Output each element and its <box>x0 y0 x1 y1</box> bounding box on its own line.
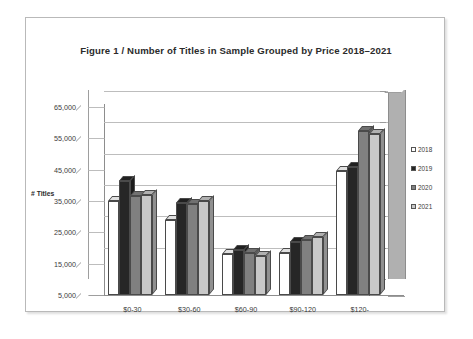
bar-side-face <box>152 189 157 295</box>
legend-swatch <box>411 185 416 190</box>
y-axis-title: # Titles <box>31 190 54 197</box>
legend-label: 2019 <box>418 165 432 172</box>
x-axis-category-label: $90-120 <box>290 305 316 314</box>
legend-swatch <box>411 204 416 209</box>
bar-front-face <box>369 134 380 295</box>
bar-front-face <box>119 181 130 295</box>
bar-front-face <box>176 203 187 295</box>
bar-2019-$0-30 <box>119 181 130 295</box>
bar-front-face <box>347 167 358 295</box>
bar-2019-$60-90 <box>233 250 244 295</box>
x-axis-category-label: $30-60 <box>178 305 200 314</box>
figure-frame: Figure 1 / Number of Titles in Sample Gr… <box>25 17 445 312</box>
legend-label: 2021 <box>418 203 432 210</box>
bar-2019-$30-60 <box>176 203 187 295</box>
bar-front-face <box>165 220 176 295</box>
legend-item-2018: 2018 <box>411 146 457 165</box>
legend-swatch <box>411 147 416 152</box>
bar-side-face <box>323 231 328 295</box>
bar-front-face <box>198 201 209 295</box>
x-axis-category-label: $120- <box>350 305 368 314</box>
bars-layer <box>26 18 446 313</box>
bar-front-face <box>312 237 323 295</box>
legend-label: 2018 <box>418 146 432 153</box>
bar-front-face <box>358 131 369 296</box>
bar-2018-$0-30 <box>108 201 119 295</box>
bar-2018-$30-60 <box>165 220 176 295</box>
x-axis-category-label: $60-90 <box>235 305 257 314</box>
x-axis-category-label: $0-30 <box>123 305 141 314</box>
bar-2021-$30-60 <box>198 201 209 295</box>
bar-front-face <box>222 254 233 295</box>
bar-front-face <box>187 204 198 295</box>
bar-2021-$90-120 <box>312 237 323 295</box>
bar-front-face <box>233 250 244 295</box>
bar-side-face <box>266 250 271 295</box>
bar-2019-$90-120 <box>290 242 301 295</box>
chart-legend: 2018201920202021 <box>411 146 457 222</box>
bar-2018-$120- <box>336 171 347 295</box>
bar-front-face <box>255 256 266 295</box>
bar-2021-$60-90 <box>255 256 266 295</box>
bar-front-face <box>130 196 141 295</box>
bar-front-face <box>244 253 255 295</box>
legend-label: 2020 <box>418 184 432 191</box>
bar-front-face <box>301 240 312 295</box>
bar-front-face <box>108 201 119 295</box>
bar-front-face <box>290 242 301 295</box>
bar-2021-$0-30 <box>141 195 152 295</box>
bar-2020-$0-30 <box>130 196 141 295</box>
bar-front-face <box>336 171 347 295</box>
bar-2020-$60-90 <box>244 253 255 295</box>
bar-2018-$90-120 <box>279 253 290 295</box>
legend-item-2019: 2019 <box>411 165 457 184</box>
legend-swatch <box>411 166 416 171</box>
bar-2021-$120- <box>369 134 380 295</box>
bar-2020-$30-60 <box>187 204 198 295</box>
bar-side-face <box>209 195 214 295</box>
bar-front-face <box>141 195 152 295</box>
bar-side-face <box>380 128 385 295</box>
legend-item-2021: 2021 <box>411 203 457 222</box>
bar-2020-$90-120 <box>301 240 312 295</box>
bar-2020-$120- <box>358 131 369 296</box>
bar-2018-$60-90 <box>222 254 233 295</box>
bar-2019-$120- <box>347 167 358 295</box>
legend-item-2020: 2020 <box>411 184 457 203</box>
bar-front-face <box>279 253 290 295</box>
plot-area: 5,00015,00025,00035,00045,00055,00065,00… <box>26 18 446 313</box>
